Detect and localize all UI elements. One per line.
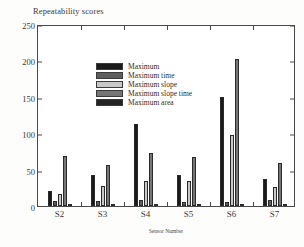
- y-tick-label: 250: [22, 21, 35, 31]
- x-tick-label: S7: [270, 209, 280, 219]
- y-tick-label: 100: [22, 130, 35, 140]
- x-tick-mark-top: [81, 26, 82, 30]
- legend-swatch: [96, 90, 123, 97]
- bar: [144, 181, 148, 206]
- legend-label: Maximum time: [128, 72, 174, 80]
- legend-swatch: [96, 63, 123, 70]
- x-tick-mark-top: [124, 26, 125, 30]
- chart-title: Repeatability scores: [33, 6, 104, 16]
- bar: [235, 59, 239, 206]
- y-tick-mark-right: [290, 62, 294, 63]
- y-tick-mark: [38, 26, 42, 27]
- bar: [182, 202, 186, 206]
- y-tick-mark: [38, 135, 42, 136]
- bar: [48, 191, 52, 206]
- legend-swatch: [96, 99, 123, 106]
- bar: [139, 200, 143, 206]
- bar: [278, 163, 282, 206]
- bar: [273, 187, 277, 206]
- x-tick-mark: [81, 202, 82, 206]
- bar: [263, 179, 267, 206]
- legend-label: Maximum area: [128, 99, 174, 107]
- bar: [111, 204, 115, 206]
- legend-label: Maximum slope time: [128, 90, 192, 98]
- y-tick-mark-right: [290, 171, 294, 172]
- y-tick-mark-right: [290, 98, 294, 99]
- y-tick-label: 0: [31, 203, 35, 213]
- bar: [177, 175, 181, 206]
- x-tick-mark: [210, 202, 211, 206]
- x-tick-mark: [167, 202, 168, 206]
- chart-legend: MaximumMaximum timeMaximum slopeMaximum …: [96, 62, 212, 107]
- x-tick-mark-top: [253, 26, 254, 30]
- bar: [283, 204, 287, 206]
- x-tick-mark-top: [167, 26, 168, 30]
- x-tick-label: S6: [227, 209, 237, 219]
- bar: [225, 202, 229, 206]
- y-tick-label: 50: [27, 167, 36, 177]
- bar: [268, 200, 272, 206]
- x-axis-title: Sensor Number: [149, 228, 183, 234]
- legend-swatch: [96, 81, 123, 88]
- y-tick-mark: [38, 62, 42, 63]
- bar: [91, 175, 95, 206]
- bar: [220, 97, 224, 206]
- y-tick-mark-right: [290, 26, 294, 27]
- legend-item: Maximum slope time: [96, 89, 212, 98]
- bar: [106, 165, 110, 206]
- bar: [53, 201, 57, 206]
- bar: [187, 181, 191, 206]
- y-tick-mark-right: [290, 135, 294, 136]
- bar: [101, 186, 105, 206]
- legend-item: Maximum slope: [96, 80, 212, 89]
- bar: [192, 157, 196, 207]
- bar: [58, 194, 62, 206]
- bar: [240, 204, 244, 206]
- bar: [149, 153, 153, 206]
- x-tick-label: S2: [55, 209, 65, 219]
- bar: [68, 204, 72, 206]
- legend-item: Maximum: [96, 62, 212, 71]
- legend-item: Maximum area: [96, 98, 212, 107]
- plot-area: 050100150200250 S2S3S4S5S6S7 MaximumMaxi…: [37, 25, 295, 207]
- x-tick-mark: [124, 202, 125, 206]
- bar: [63, 156, 67, 206]
- bar: [230, 135, 234, 206]
- x-tick-mark-top: [210, 26, 211, 30]
- legend-swatch: [96, 72, 123, 79]
- x-tick-label: S4: [141, 209, 151, 219]
- x-tick-mark: [253, 202, 254, 206]
- legend-item: Maximum time: [96, 71, 212, 80]
- bar: [96, 201, 100, 206]
- bar: [154, 204, 158, 206]
- legend-label: Maximum slope: [128, 81, 177, 89]
- legend-label: Maximum: [128, 63, 159, 71]
- y-tick-mark: [38, 98, 42, 99]
- chart-figure: Repeatability scores 050100150200250 S2S…: [0, 0, 304, 247]
- y-tick-mark: [38, 171, 42, 172]
- y-tick-label: 150: [22, 94, 35, 104]
- y-tick-label: 200: [22, 57, 35, 67]
- bar: [134, 124, 138, 206]
- bar: [197, 204, 201, 206]
- x-tick-label: S5: [184, 209, 194, 219]
- x-tick-label: S3: [98, 209, 108, 219]
